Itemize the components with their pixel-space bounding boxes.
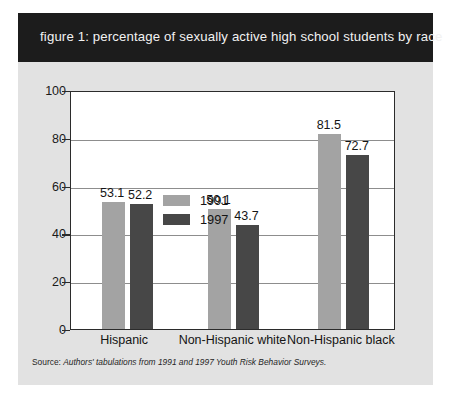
bar-value-label: 50.1 xyxy=(201,193,236,207)
source-note: Source: Authors' tabulations from 1991 a… xyxy=(32,357,326,367)
y-axis: 020406080100 xyxy=(28,91,66,330)
y-tick-label-20: 20 xyxy=(32,275,66,289)
y-tick-mark-80 xyxy=(62,139,70,140)
y-tick-label-80: 80 xyxy=(32,132,66,146)
legend-entry-1997: 1997 xyxy=(163,211,228,227)
bar-hispanic-1997 xyxy=(130,204,153,329)
figure-root: figure 1: percentage of sexually active … xyxy=(0,0,449,398)
source-prefix: Source: xyxy=(32,357,63,367)
category-label-non-hispanic-white: Non-Hispanic white xyxy=(178,333,286,347)
y-tick-mark-0 xyxy=(62,330,70,331)
figure-title-bar: figure 1: percentage of sexually active … xyxy=(18,13,433,62)
bar-value-label: 72.7 xyxy=(339,139,374,153)
y-tick-mark-100 xyxy=(62,91,70,92)
category-label-hispanic: Hispanic xyxy=(70,333,178,347)
y-tick-label-0: 0 xyxy=(32,323,66,337)
bar-value-label: 81.5 xyxy=(311,118,346,132)
y-tick-label-40: 40 xyxy=(32,227,66,241)
y-tick-label-100: 100 xyxy=(32,84,66,98)
bar-non-hispanic-black-1991 xyxy=(318,134,341,329)
y-tick-label-60: 60 xyxy=(32,180,66,194)
legend-label-1997: 1997 xyxy=(200,212,228,227)
y-tick-mark-60 xyxy=(62,187,70,188)
bar-non-hispanic-black-1997 xyxy=(346,155,369,329)
figure-title: figure 1: percentage of sexually active … xyxy=(40,29,442,44)
bar-value-label: 52.2 xyxy=(123,188,158,202)
bar-hispanic-1991 xyxy=(102,202,125,329)
source-citation: Authors' tabulations from 1991 and 1997 … xyxy=(63,357,326,367)
legend-swatch-1997 xyxy=(163,214,190,225)
legend-swatch-1991 xyxy=(163,195,190,206)
bar-value-label: 43.7 xyxy=(229,209,264,223)
y-tick-mark-20 xyxy=(62,282,70,283)
category-label-non-hispanic-black: Non-Hispanic black xyxy=(287,333,395,347)
bar-non-hispanic-white-1997 xyxy=(236,225,259,329)
y-tick-mark-40 xyxy=(62,234,70,235)
